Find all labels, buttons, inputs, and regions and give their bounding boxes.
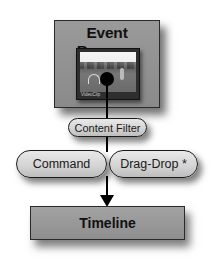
thumbnail-goal bbox=[88, 74, 100, 84]
connector-line-inner bbox=[106, 84, 108, 108]
connector-line-middle bbox=[106, 136, 108, 152]
drag-drop-label: Drag-Drop * bbox=[120, 157, 187, 171]
thumbnail-player bbox=[120, 68, 124, 80]
timeline-node: Timeline bbox=[30, 206, 185, 240]
thumbnail-treeline bbox=[80, 62, 136, 69]
content-filter-node: Content Filter bbox=[68, 118, 147, 137]
command-node: Command bbox=[16, 150, 107, 178]
command-label: Command bbox=[33, 157, 91, 171]
video-clip-label: VideoClip bbox=[81, 92, 100, 97]
drag-drop-node: Drag-Drop * bbox=[109, 150, 198, 178]
timeline-label: Timeline bbox=[79, 215, 136, 231]
content-filter-label: Content Filter bbox=[74, 122, 140, 134]
